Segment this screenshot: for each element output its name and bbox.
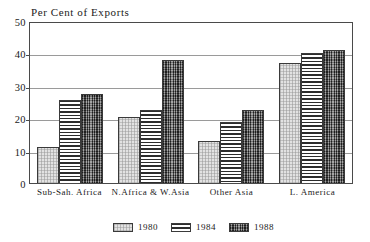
- bar-group-other-asia: [198, 23, 264, 183]
- x-tick-label-nafrica-wasia: N.Africa & W.Asia: [110, 187, 191, 201]
- legend-entry-1980[interactable]: 1980: [113, 222, 158, 232]
- bar-l-america-1984[interactable]: [301, 53, 323, 183]
- y-tick-label-50: 50: [15, 17, 26, 28]
- bar-group-sub-sah-africa: [37, 23, 103, 183]
- x-tick-label-l-america: L. America: [272, 187, 353, 201]
- bar-other-asia-1988[interactable]: [242, 110, 264, 183]
- y-tick-label-20: 20: [15, 114, 26, 125]
- x-tick-label-other-asia: Other Asia: [191, 187, 272, 201]
- bar-group-l-america: [279, 23, 345, 183]
- bar-l-america-1980[interactable]: [279, 63, 301, 183]
- y-tick-label-10: 10: [15, 146, 26, 157]
- y-axis: 50 40 30 20 10 0: [0, 22, 26, 184]
- bar-nafrica-wasia-1984[interactable]: [140, 110, 162, 183]
- legend-entry-1984[interactable]: 1984: [171, 222, 216, 232]
- bar-chart: Per Cent of Exports 50 40 30 20 10 0: [0, 0, 370, 242]
- legend-label-1984: 1984: [196, 222, 216, 232]
- bar-sub-sah-africa-1984[interactable]: [59, 100, 81, 183]
- legend-entry-1988[interactable]: 1988: [229, 222, 274, 232]
- legend-swatch-1984-icon: [171, 223, 191, 232]
- bar-l-america-1988[interactable]: [323, 50, 345, 183]
- x-axis: Sub-Sah. Africa N.Africa & W.Asia Other …: [29, 187, 353, 201]
- bar-other-asia-1984[interactable]: [220, 122, 242, 183]
- chart-title: Per Cent of Exports: [31, 6, 129, 18]
- bar-other-asia-1980[interactable]: [198, 141, 220, 183]
- x-tick-label-sub-sah-africa: Sub-Sah. Africa: [29, 187, 110, 201]
- chart-legend: 1980 1984 1988: [113, 222, 274, 232]
- legend-swatch-1980-icon: [113, 223, 133, 232]
- legend-swatch-1988-icon: [229, 223, 249, 232]
- bar-nafrica-wasia-1980[interactable]: [118, 117, 140, 183]
- y-tick-label-30: 30: [15, 81, 26, 92]
- bar-group-nafrica-wasia: [118, 23, 184, 183]
- bar-nafrica-wasia-1988[interactable]: [162, 60, 184, 183]
- plot-area: [29, 22, 353, 184]
- plot-inner: [30, 23, 352, 183]
- legend-label-1980: 1980: [138, 222, 158, 232]
- bars-layer: [30, 23, 352, 183]
- y-tick-label-0: 0: [20, 179, 26, 190]
- bar-sub-sah-africa-1988[interactable]: [81, 94, 103, 183]
- legend-label-1988: 1988: [254, 222, 274, 232]
- bar-sub-sah-africa-1980[interactable]: [37, 147, 59, 183]
- y-tick-label-40: 40: [15, 49, 26, 60]
